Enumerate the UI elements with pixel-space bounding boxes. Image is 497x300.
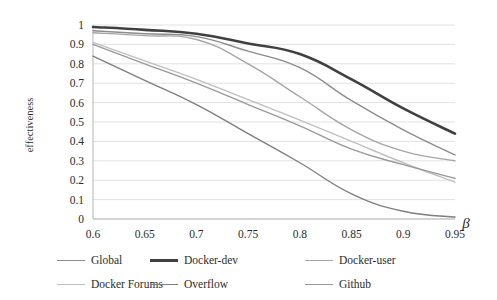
legend-row-1: Global Docker-dev Docker-user (0, 248, 497, 272)
legend-label-docker-user: Docker-user (339, 254, 396, 266)
gridlines (93, 25, 455, 219)
x-tick-label: 0.65 (135, 228, 155, 240)
series-line-github (93, 44, 455, 178)
x-tick-label: 0.7 (189, 228, 204, 240)
x-tick-label: 0.8 (293, 228, 308, 240)
legend-swatch-docker-user (305, 260, 333, 261)
y-tick-label: 0.2 (70, 174, 85, 186)
legend-swatch-docker-dev (150, 259, 178, 262)
y-tick-label: 0.7 (70, 77, 85, 89)
legend-swatch-github (305, 284, 333, 285)
y-tick-label: 0.6 (70, 97, 85, 109)
plot-area: 10.90.80.70.60.50.40.30.20.10 0.60.650.7… (0, 0, 497, 240)
x-tick-label: 0.75 (238, 228, 258, 240)
legend-item-docker-forums[interactable]: Docker Forums (0, 272, 150, 296)
legend-item-docker-dev[interactable]: Docker-dev (150, 248, 305, 272)
legend-item-global[interactable]: Global (0, 248, 150, 272)
series-line-global (93, 31, 455, 155)
chart-svg: 10.90.80.70.60.50.40.30.20.10 0.60.650.7… (0, 0, 497, 240)
y-tick-label: 0.9 (70, 38, 85, 50)
legend-swatch-docker-forums (57, 284, 85, 285)
y-tick-label: 0.8 (70, 58, 85, 70)
legend-label-global: Global (91, 254, 122, 266)
legend-label-docker-dev: Docker-dev (184, 254, 238, 266)
legend-swatch-global (57, 260, 85, 261)
y-tick-label: 0.1 (70, 194, 85, 206)
y-tick-label: 0.3 (70, 155, 85, 167)
line-chart: 10.90.80.70.60.50.40.30.20.10 0.60.650.7… (0, 0, 497, 300)
y-tick-label: 0 (78, 213, 84, 225)
legend-label-github: Github (339, 278, 371, 290)
y-tick-label: 0.5 (70, 116, 85, 128)
legend-label-overflow: Overflow (184, 278, 228, 290)
y-axis-tick-labels: 10.90.80.70.60.50.40.30.20.10 (70, 19, 85, 225)
legend-item-github[interactable]: Github (305, 272, 465, 296)
y-tick-label: 0.4 (70, 135, 85, 147)
legend-swatch-overflow (150, 284, 178, 285)
x-tick-label: 0.9 (396, 228, 411, 240)
legend-item-docker-user[interactable]: Docker-user (305, 248, 465, 272)
chart-legend: Global Docker-dev Docker-user Docker For… (0, 246, 497, 300)
y-axis-title: effectiveness (24, 98, 35, 153)
x-tick-label: 0.6 (86, 228, 101, 240)
y-tick-label: 1 (78, 19, 84, 31)
x-tick-label: 0.85 (342, 228, 362, 240)
legend-row-2: Docker Forums Overflow Github (0, 272, 497, 296)
x-axis-tick-labels: 0.60.650.70.750.80.850.90.95 (86, 228, 466, 240)
x-axis-title: β (461, 215, 470, 231)
legend-item-overflow[interactable]: Overflow (150, 272, 305, 296)
